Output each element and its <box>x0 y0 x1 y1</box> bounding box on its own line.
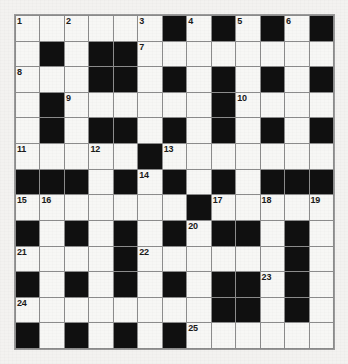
crossword-cell-open[interactable] <box>114 144 137 169</box>
crossword-cell-open[interactable] <box>163 247 186 272</box>
crossword-cell-open[interactable] <box>40 247 63 272</box>
crossword-cell-open[interactable] <box>212 323 235 348</box>
crossword-cell-open[interactable]: 21 <box>16 247 39 272</box>
crossword-cell-open[interactable] <box>138 298 161 323</box>
crossword-cell-open[interactable] <box>89 221 112 246</box>
crossword-cell-open[interactable] <box>65 247 88 272</box>
crossword-cell-open[interactable]: 1 <box>16 16 39 41</box>
crossword-cell-open[interactable] <box>212 42 235 67</box>
crossword-cell-open[interactable] <box>65 144 88 169</box>
crossword-cell-open[interactable] <box>285 67 308 92</box>
crossword-cell-open[interactable] <box>187 118 210 143</box>
crossword-cell-open[interactable] <box>310 298 333 323</box>
crossword-cell-open[interactable]: 23 <box>261 272 284 297</box>
crossword-cell-open[interactable] <box>16 42 39 67</box>
crossword-cell-open[interactable] <box>16 93 39 118</box>
crossword-cell-open[interactable] <box>65 298 88 323</box>
crossword-cell-open[interactable] <box>187 247 210 272</box>
crossword-cell-open[interactable]: 19 <box>310 195 333 220</box>
crossword-cell-open[interactable] <box>187 67 210 92</box>
crossword-cell-open[interactable] <box>138 118 161 143</box>
crossword-cell-open[interactable] <box>40 67 63 92</box>
crossword-cell-open[interactable]: 17 <box>212 195 235 220</box>
crossword-cell-open[interactable] <box>138 323 161 348</box>
crossword-cell-open[interactable] <box>65 42 88 67</box>
crossword-cell-open[interactable]: 3 <box>138 16 161 41</box>
crossword-cell-open[interactable] <box>138 195 161 220</box>
crossword-cell-open[interactable] <box>114 298 137 323</box>
crossword-cell-open[interactable] <box>285 195 308 220</box>
crossword-cell-open[interactable]: 10 <box>236 93 259 118</box>
crossword-cell-open[interactable] <box>138 221 161 246</box>
crossword-cell-open[interactable] <box>187 170 210 195</box>
crossword-cell-open[interactable] <box>285 42 308 67</box>
crossword-cell-open[interactable] <box>261 298 284 323</box>
crossword-cell-open[interactable] <box>89 195 112 220</box>
crossword-cell-open[interactable] <box>89 16 112 41</box>
crossword-cell-open[interactable]: 25 <box>187 323 210 348</box>
crossword-cell-open[interactable] <box>65 195 88 220</box>
crossword-cell-open[interactable] <box>89 93 112 118</box>
crossword-cell-open[interactable] <box>65 67 88 92</box>
crossword-cell-open[interactable] <box>236 144 259 169</box>
crossword-cell-open[interactable] <box>40 298 63 323</box>
crossword-grid[interactable]: 1234567891011121314151617181920212223242… <box>14 14 335 350</box>
crossword-cell-open[interactable] <box>285 93 308 118</box>
crossword-cell-open[interactable] <box>310 247 333 272</box>
crossword-cell-open[interactable] <box>65 118 88 143</box>
crossword-cell-open[interactable] <box>261 323 284 348</box>
crossword-cell-open[interactable] <box>163 93 186 118</box>
crossword-cell-open[interactable] <box>212 144 235 169</box>
crossword-cell-open[interactable] <box>114 16 137 41</box>
crossword-cell-open[interactable] <box>310 323 333 348</box>
crossword-cell-open[interactable]: 6 <box>285 16 308 41</box>
crossword-cell-open[interactable]: 14 <box>138 170 161 195</box>
crossword-cell-open[interactable] <box>187 272 210 297</box>
crossword-cell-open[interactable] <box>236 247 259 272</box>
crossword-cell-open[interactable] <box>114 195 137 220</box>
crossword-cell-open[interactable] <box>187 42 210 67</box>
crossword-cell-open[interactable] <box>89 247 112 272</box>
crossword-cell-open[interactable] <box>261 144 284 169</box>
crossword-cell-open[interactable] <box>163 298 186 323</box>
crossword-cell-open[interactable] <box>89 272 112 297</box>
crossword-cell-open[interactable] <box>261 93 284 118</box>
crossword-cell-open[interactable] <box>40 144 63 169</box>
crossword-cell-open[interactable]: 22 <box>138 247 161 272</box>
crossword-cell-open[interactable]: 9 <box>65 93 88 118</box>
crossword-cell-open[interactable] <box>310 272 333 297</box>
crossword-cell-open[interactable] <box>310 144 333 169</box>
crossword-cell-open[interactable] <box>16 118 39 143</box>
crossword-cell-open[interactable] <box>261 221 284 246</box>
crossword-cell-open[interactable] <box>163 195 186 220</box>
crossword-cell-open[interactable]: 11 <box>16 144 39 169</box>
crossword-cell-open[interactable] <box>89 170 112 195</box>
crossword-cell-open[interactable]: 7 <box>138 42 161 67</box>
crossword-cell-open[interactable] <box>138 67 161 92</box>
crossword-cell-open[interactable] <box>89 323 112 348</box>
crossword-cell-open[interactable]: 18 <box>261 195 284 220</box>
crossword-cell-open[interactable] <box>40 221 63 246</box>
crossword-cell-open[interactable] <box>236 118 259 143</box>
crossword-cell-open[interactable] <box>261 42 284 67</box>
crossword-cell-open[interactable] <box>236 170 259 195</box>
crossword-cell-open[interactable] <box>40 16 63 41</box>
crossword-cell-open[interactable]: 4 <box>187 16 210 41</box>
crossword-cell-open[interactable] <box>310 93 333 118</box>
crossword-cell-open[interactable] <box>187 93 210 118</box>
crossword-cell-open[interactable] <box>138 272 161 297</box>
crossword-cell-open[interactable] <box>187 144 210 169</box>
crossword-cell-open[interactable] <box>89 298 112 323</box>
crossword-cell-open[interactable]: 5 <box>236 16 259 41</box>
crossword-cell-open[interactable]: 8 <box>16 67 39 92</box>
crossword-cell-open[interactable] <box>212 247 235 272</box>
crossword-cell-open[interactable] <box>138 93 161 118</box>
crossword-cell-open[interactable] <box>187 298 210 323</box>
crossword-cell-open[interactable] <box>40 323 63 348</box>
crossword-cell-open[interactable] <box>310 221 333 246</box>
crossword-cell-open[interactable] <box>236 195 259 220</box>
crossword-cell-open[interactable]: 15 <box>16 195 39 220</box>
crossword-cell-open[interactable]: 2 <box>65 16 88 41</box>
crossword-cell-open[interactable]: 13 <box>163 144 186 169</box>
crossword-cell-open[interactable] <box>285 323 308 348</box>
